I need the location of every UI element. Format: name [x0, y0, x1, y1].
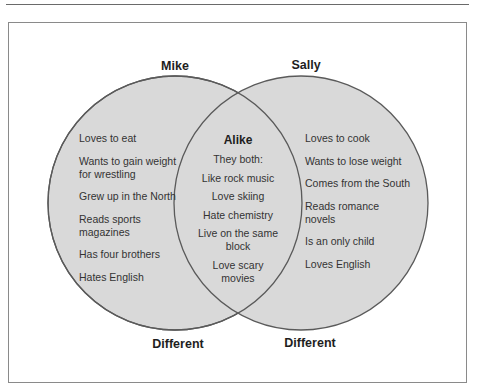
list-item: Like rock music	[188, 172, 288, 185]
list-item: Loves English	[305, 258, 425, 271]
list-item: Wants to gain weight for wrestling	[79, 155, 189, 181]
alike-title: Alike	[188, 134, 288, 147]
list-item: Reads romance novels	[305, 200, 385, 226]
list-item: Wants to lose weight	[305, 155, 425, 168]
sally-traits-list: Loves to cook Wants to lose weight Comes…	[305, 132, 425, 280]
list-item: Hates English	[79, 271, 194, 284]
list-item: Love scary movies	[203, 259, 273, 285]
list-item: Loves to eat	[79, 132, 194, 145]
sally-label: Sally	[281, 58, 331, 72]
list-item: Live on the same block	[193, 227, 283, 253]
sally-different-label: Different	[270, 336, 350, 350]
list-item: Hate chemistry	[188, 209, 288, 222]
alike-intro: They both:	[188, 153, 288, 166]
list-item: Reads sports magazines	[79, 213, 159, 239]
mike-label: Mike	[150, 59, 200, 73]
mike-different-label: Different	[138, 337, 218, 351]
list-item: Is an only child	[305, 235, 425, 248]
list-item: Love skiing	[188, 190, 288, 203]
list-item: Comes from the South	[305, 177, 425, 190]
list-item: Loves to cook	[305, 132, 425, 145]
alike-traits-list: Alike They both: Like rock music Love sk…	[188, 134, 288, 290]
mike-traits-list: Loves to eat Wants to gain weight for wr…	[79, 132, 194, 293]
list-item: Has four brothers	[79, 248, 194, 261]
list-item: Grew up in the North	[79, 190, 194, 203]
